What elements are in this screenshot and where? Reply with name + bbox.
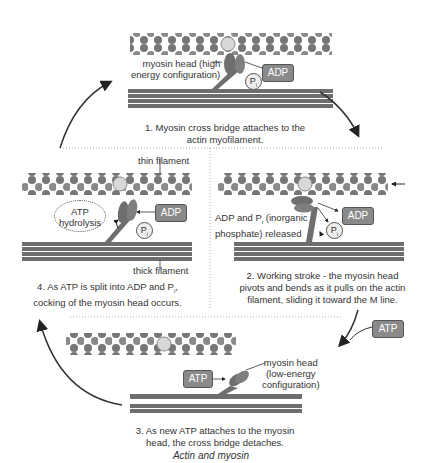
step1-caption: 1. Myosin cross bridge attaches to the a… <box>110 122 340 146</box>
caption-line: cocking of the myosin head occurs. <box>10 297 205 309</box>
hydrolysis-line: ATP <box>55 206 105 217</box>
pi-circle: Pi <box>326 222 343 239</box>
caption-line: 3. As new ATP attaches to the myosin <box>115 425 315 437</box>
adp-box: ADP <box>155 204 187 222</box>
caption-line: pivots and bends as it pulls on the acti… <box>225 282 420 294</box>
release-text: ADP and P <box>215 212 262 223</box>
pi-sub: i <box>147 231 148 237</box>
step2-caption: 2. Working stroke - the myosin head pivo… <box>225 270 420 306</box>
caption-text: , <box>175 281 178 292</box>
figure-title: Actin and myosin <box>0 450 422 461</box>
pi-sub: i <box>256 82 257 88</box>
caption-line: 1. Myosin cross bridge attaches to the <box>110 122 340 134</box>
myosin-head-high-label: myosin head (high energy configuration) <box>131 58 220 80</box>
release-line: phosphate) released <box>215 228 308 239</box>
pi-sub: i <box>337 231 338 237</box>
label-line: myosin head <box>262 357 320 368</box>
caption-text: 4. As ATP is split into ADP and P <box>37 281 174 292</box>
caption-line: 2. Working stroke - the myosin head <box>225 270 420 282</box>
thin-filament-label: thin filament <box>138 155 189 166</box>
step4-caption: 4. As ATP is split into ADP and Pi, cock… <box>10 281 205 309</box>
label-line: myosin head (high <box>131 58 220 69</box>
pi-circle: Pi <box>245 73 262 90</box>
atp-hydrolysis-bubble: ATP hydrolysis <box>54 200 106 232</box>
caption-line: filament, sliding it toward the M line. <box>225 294 420 306</box>
caption-line: actin myofilament. <box>110 134 340 146</box>
caption-line: head, the cross bridge detaches. <box>115 437 315 449</box>
label-line: configuration) <box>262 379 320 390</box>
atp-box: ATP <box>183 370 213 388</box>
pi-circle: Pi <box>136 222 153 239</box>
cycle-arrow-4-to-1 <box>60 82 110 148</box>
thick-filament-label: thick filament <box>133 265 188 276</box>
label-line: energy configuration) <box>131 69 220 80</box>
atp-incoming-box: ATP <box>372 320 404 338</box>
adp-box: ADP <box>262 64 294 82</box>
label-line: (low-energy <box>262 368 320 379</box>
hydrolysis-line: hydrolysis <box>55 217 105 228</box>
adp-box: ADP <box>342 207 374 225</box>
step3-caption: 3. As new ATP attaches to the myosin hea… <box>115 425 315 449</box>
release-text: (inorganic <box>263 212 307 223</box>
cycle-arrow-2-to-3 <box>340 310 358 345</box>
released-label: ADP and Pi (inorganic phosphate) release… <box>215 212 308 239</box>
myosin-head-low-label: myosin head (low-energy configuration) <box>262 357 320 390</box>
